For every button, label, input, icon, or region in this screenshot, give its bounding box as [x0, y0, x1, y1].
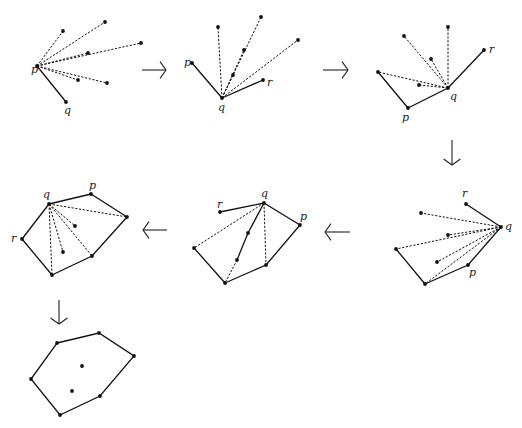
label-r: r — [217, 198, 223, 211]
vertex-q — [499, 225, 503, 229]
vertex-r — [261, 78, 265, 82]
dashed-edge — [425, 227, 501, 284]
hull-edge — [91, 194, 127, 217]
hull-edge — [225, 265, 266, 283]
dashed-edge — [222, 40, 298, 98]
vertex-q — [220, 96, 224, 100]
point — [446, 25, 450, 29]
vertex-s — [376, 70, 380, 74]
label-p: p — [469, 266, 476, 279]
vertex-m — [264, 263, 268, 267]
label-r: r — [489, 43, 495, 56]
label-q: q — [64, 104, 71, 117]
label-q: q — [43, 188, 50, 201]
label-q: q — [218, 101, 225, 114]
hull-vertex — [132, 354, 136, 358]
hull-edge — [192, 63, 222, 98]
vertex-b — [50, 273, 54, 277]
arrow-down-icon — [444, 140, 461, 165]
label-r: r — [11, 232, 17, 245]
label-p: p — [89, 179, 96, 192]
panel-step-7 — [29, 331, 136, 417]
label-q: q — [261, 187, 268, 200]
panel-step-3: pqr — [376, 25, 495, 124]
point — [259, 15, 263, 19]
label-p: p — [300, 210, 307, 223]
hull-edge — [466, 204, 501, 227]
dashed-edge — [49, 204, 92, 256]
vertex-r — [482, 48, 486, 52]
label-q: q — [450, 90, 457, 103]
vertex-i2 — [235, 258, 239, 262]
dashed-edge — [49, 204, 63, 252]
hull-edge — [396, 249, 425, 284]
hull-vertex — [29, 377, 33, 381]
hull-edge — [248, 203, 264, 233]
dashed-edge — [37, 66, 107, 83]
hull-vertex — [58, 413, 62, 417]
hull-edge — [22, 204, 49, 239]
dashed-edge — [49, 204, 127, 217]
point — [61, 250, 65, 254]
arrow-down-icon — [51, 300, 68, 324]
panel-step-5: qrp — [192, 187, 307, 285]
hull-edge — [448, 50, 484, 88]
hull-edge — [22, 239, 52, 275]
dashed-edge — [431, 59, 448, 88]
hull-edge — [266, 225, 300, 265]
label-p: p — [184, 56, 191, 69]
hull-edge — [92, 217, 127, 256]
point — [139, 41, 143, 45]
point — [103, 20, 107, 24]
vertex-b — [423, 282, 427, 286]
dashed-edge — [49, 204, 75, 226]
point — [73, 224, 77, 228]
vertex-i1 — [246, 231, 250, 235]
point — [86, 51, 90, 55]
point — [446, 233, 450, 237]
vertex-p — [406, 106, 410, 110]
panel-step-1: pq — [31, 20, 143, 117]
hull-vertex — [55, 341, 59, 345]
dashed-edge — [49, 204, 52, 275]
hull-edge — [194, 248, 225, 283]
convex-hull-polygon — [31, 333, 134, 415]
vertex-e — [125, 215, 129, 219]
arrow-left-icon — [325, 224, 350, 241]
convex-hull-diagram: pqpqrpqrrqpqrpqpr — [0, 0, 522, 428]
label-p: p — [31, 63, 38, 76]
hull-vertex — [97, 331, 101, 335]
vertex-p — [89, 192, 93, 196]
point — [296, 38, 300, 42]
vertex-q — [262, 201, 266, 205]
arrow-right-icon — [142, 62, 166, 79]
vertex-q — [47, 202, 51, 206]
dashed-edge — [264, 203, 266, 265]
hull-edge — [52, 256, 92, 275]
hull-vertex — [98, 394, 102, 398]
label-p: p — [402, 111, 409, 124]
vertex-l — [192, 246, 196, 250]
point — [70, 389, 74, 393]
vertex-l — [394, 247, 398, 251]
dashed-edge — [37, 31, 63, 66]
point — [216, 25, 220, 29]
hull-edge — [408, 88, 448, 108]
label-r: r — [462, 187, 468, 200]
dashed-edge — [404, 36, 448, 88]
point — [105, 81, 109, 85]
panel-step-2: pqr — [184, 15, 300, 114]
dashed-edge — [37, 22, 105, 66]
dashed-edge — [218, 27, 222, 98]
panel-step-6: qpr — [11, 179, 129, 277]
point — [435, 260, 439, 264]
hull-edge — [222, 80, 263, 98]
point — [80, 364, 84, 368]
point — [417, 83, 421, 87]
arrow-right-icon — [323, 62, 348, 79]
point — [242, 48, 246, 52]
vertex-b — [223, 281, 227, 285]
label-r: r — [267, 76, 273, 89]
vertex-r — [464, 202, 468, 206]
hull-edge — [49, 194, 91, 204]
